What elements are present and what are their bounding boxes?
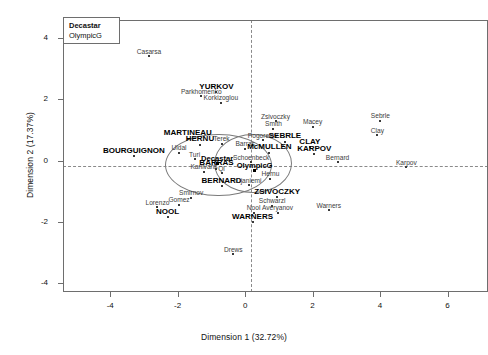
point-label: Zsivoczky bbox=[261, 113, 290, 120]
point-label: Nool bbox=[247, 204, 261, 211]
y-axis-tick bbox=[58, 283, 63, 284]
point-label: YURKOV bbox=[199, 83, 233, 90]
data-point bbox=[244, 148, 246, 150]
x-axis-tick bbox=[245, 292, 246, 297]
data-point bbox=[148, 55, 150, 57]
data-point bbox=[221, 185, 223, 187]
data-point bbox=[199, 144, 201, 146]
point-label: WARNERS bbox=[232, 213, 273, 220]
data-point bbox=[269, 178, 271, 180]
x-axis-title: Dimension 1 (32.72%) bbox=[0, 332, 488, 342]
data-point bbox=[232, 253, 234, 255]
point-label: Hernu bbox=[261, 170, 279, 177]
data-point bbox=[178, 204, 180, 206]
y-axis-tick bbox=[58, 222, 63, 223]
point-label: Casarsa bbox=[137, 48, 162, 55]
point-label: OlympicG bbox=[237, 162, 273, 169]
data-point bbox=[221, 172, 223, 174]
y-axis-tick-label: -4 bbox=[30, 278, 48, 287]
data-point bbox=[337, 161, 339, 163]
y-axis-title: Dimension 2 (17.37%) bbox=[25, 65, 35, 245]
data-point bbox=[376, 134, 378, 136]
x-axis-tick bbox=[380, 292, 381, 297]
x-axis-tick bbox=[448, 292, 449, 297]
data-point bbox=[221, 143, 223, 145]
x-axis-tick-label: 4 bbox=[365, 301, 395, 310]
point-label: Schoenbeck bbox=[233, 154, 269, 161]
data-point bbox=[379, 120, 381, 122]
x-axis-tick bbox=[313, 292, 314, 297]
scatter-plot-figure: CasarsaParkhomenkoYURKOVKorkizoglouZsivo… bbox=[0, 0, 488, 355]
x-axis-tick-label: -4 bbox=[95, 301, 125, 310]
data-point bbox=[200, 95, 202, 97]
data-point bbox=[190, 197, 192, 199]
point-label: NOOL bbox=[156, 208, 179, 215]
point-label: Qi bbox=[218, 165, 225, 172]
x-axis-tick bbox=[110, 292, 111, 297]
data-point bbox=[312, 126, 314, 128]
y-axis-tick-label: 4 bbox=[30, 33, 48, 42]
point-label: McMULLEN bbox=[247, 143, 291, 150]
point-label: Warners bbox=[316, 202, 341, 209]
point-label: Turi bbox=[189, 151, 200, 158]
point-label: KARPOV bbox=[297, 145, 331, 152]
y-axis-tick bbox=[58, 99, 63, 100]
point-label: Korkizoglou bbox=[204, 94, 238, 101]
data-point bbox=[133, 155, 135, 157]
legend-item-olympicg: OlympicG bbox=[69, 31, 119, 41]
point-label: Terek bbox=[213, 135, 229, 142]
x-axis-tick-label: 2 bbox=[298, 301, 328, 310]
data-point bbox=[313, 153, 315, 155]
point-label: SEBRLE bbox=[269, 132, 301, 139]
group-legend: Decastar OlympicG bbox=[63, 17, 120, 44]
legend-item-decastar: Decastar bbox=[69, 21, 119, 31]
data-point bbox=[203, 171, 205, 173]
data-point bbox=[272, 128, 274, 130]
point-label: Uldal bbox=[172, 144, 187, 151]
data-point bbox=[262, 139, 264, 141]
point-label: Lorenzo bbox=[146, 199, 170, 206]
point-label: Drews bbox=[224, 246, 243, 253]
data-point bbox=[252, 221, 254, 223]
point-label: ZSIVOCZKY bbox=[254, 188, 300, 195]
data-point bbox=[194, 158, 196, 160]
point-label: Clay bbox=[371, 127, 384, 134]
data-point bbox=[167, 216, 169, 218]
x-axis-tick-label: 6 bbox=[433, 301, 463, 310]
data-point bbox=[277, 212, 279, 214]
point-label: Ojaniemi bbox=[236, 177, 262, 184]
point-label: Smith bbox=[265, 120, 282, 127]
point-label: Gomez bbox=[168, 196, 189, 203]
point-label: BARRAS bbox=[199, 159, 233, 166]
x-axis-tick-label: -2 bbox=[163, 301, 193, 310]
point-label: Sebrle bbox=[371, 112, 390, 119]
point-label: Karpov bbox=[396, 159, 417, 166]
point-label: Bernard bbox=[326, 154, 349, 161]
point-label: Macey bbox=[303, 118, 322, 125]
data-point bbox=[328, 209, 330, 211]
x-axis-tick bbox=[178, 292, 179, 297]
data-point bbox=[220, 102, 222, 104]
point-label: HERNU bbox=[186, 135, 214, 142]
data-point bbox=[248, 184, 250, 186]
data-point bbox=[178, 152, 180, 154]
point-label: BOURGUIGNON bbox=[103, 147, 165, 154]
x-axis-tick-label: 0 bbox=[230, 301, 260, 310]
y-axis-tick bbox=[58, 161, 63, 162]
data-point bbox=[405, 166, 407, 168]
point-label: Averyanov bbox=[262, 204, 293, 211]
